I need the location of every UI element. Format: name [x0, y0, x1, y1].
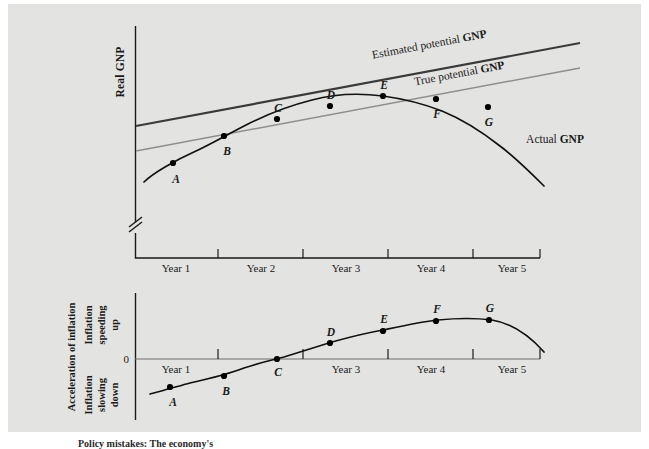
upper-axis-lines [136, 233, 541, 258]
lower-y-label-up-1: Inflation [83, 305, 94, 344]
data-point-c [274, 116, 280, 122]
upper-x-tickmarks [218, 249, 540, 258]
lower-inflation-chart: Acceleration of inflation Inflation spee… [66, 293, 544, 420]
inflation-acceleration-curve [150, 319, 544, 395]
lower-data-point-g [486, 317, 492, 323]
lower-data-point-c [274, 356, 280, 362]
data-point-b [221, 133, 227, 139]
data-point-g [485, 104, 491, 110]
actual-label-bold: GNP [560, 133, 584, 145]
lower-x-tick-label-year3: Year 3 [332, 363, 361, 375]
upper-point-label-a: A [171, 173, 180, 185]
estimated-potential-gnp-label: Estimated potential GNP [371, 27, 488, 61]
lower-x-tick-label-year1: Year 1 [162, 363, 191, 375]
data-point-a [170, 160, 176, 166]
true-potential-gnp-line [136, 68, 580, 151]
actual-gnp-label: Actual GNP [526, 133, 584, 145]
data-point-d [327, 103, 333, 109]
upper-gnp-chart: Real GNP Year 1 Year 2 Year 3 Year 4 [114, 26, 584, 274]
lower-point-label-c: C [274, 366, 282, 378]
lower-data-point-d [327, 340, 333, 346]
lower-y-label-down-3: down [109, 383, 120, 408]
figure-root: Real GNP Year 1 Year 2 Year 3 Year 4 [0, 0, 649, 449]
upper-x-tick-label-year2: Year 2 [247, 262, 276, 274]
lower-y-label-up-3: up [109, 319, 120, 331]
lower-data-point-f [433, 318, 439, 324]
upper-data-points [170, 93, 491, 166]
upper-x-tick-label-year1: Year 1 [162, 262, 191, 274]
actual-gnp-curve [144, 94, 544, 186]
estimated-label-plain: Estimated potential [371, 32, 464, 62]
upper-point-label-c: C [274, 102, 282, 114]
upper-x-tick-label-year4: Year 4 [417, 262, 446, 274]
lower-data-point-a [167, 384, 173, 390]
lower-x-tickmarks [218, 349, 540, 359]
upper-x-tick-label-year3: Year 3 [332, 262, 361, 274]
lower-point-label-e: E [379, 313, 388, 325]
lower-point-label-b: B [221, 385, 230, 397]
upper-y-axis-label: Real GNP [114, 46, 126, 97]
lower-y-label-down-1: Inflation [83, 375, 94, 414]
lower-point-label-a: A [168, 396, 177, 408]
lower-y-axis-label-outer: Acceleration of inflation [66, 303, 77, 412]
lower-point-label-f: F [432, 303, 441, 315]
upper-point-label-d: D [326, 89, 336, 101]
lower-data-point-e [380, 328, 386, 334]
upper-point-label-g: G [485, 116, 494, 128]
lower-x-tick-label-year4: Year 4 [417, 363, 446, 375]
upper-point-label-f: F [432, 108, 441, 120]
upper-point-label-e: E [379, 79, 388, 91]
lower-data-point-b [221, 373, 227, 379]
lower-zero-label: 0 [124, 353, 130, 365]
actual-label-plain: Actual [526, 133, 560, 145]
figure-caption: Policy mistakes: The economy's [78, 438, 213, 449]
estimated-potential-gnp-line [136, 43, 580, 126]
lower-x-tick-label-year5: Year 5 [498, 363, 527, 375]
lower-point-label-d: D [326, 326, 336, 338]
upper-x-tick-label-year5: Year 5 [498, 262, 527, 274]
data-point-e [380, 93, 386, 99]
lower-point-label-g: G [486, 302, 495, 314]
lower-y-label-down-2: slowing [96, 377, 107, 412]
estimated-label-bold: GNP [461, 27, 487, 43]
data-point-f [433, 96, 439, 102]
upper-point-label-b: B [222, 145, 231, 157]
figure-svg: Real GNP Year 1 Year 2 Year 3 Year 4 [0, 0, 649, 449]
lower-y-label-up-2: speeding [96, 305, 107, 345]
